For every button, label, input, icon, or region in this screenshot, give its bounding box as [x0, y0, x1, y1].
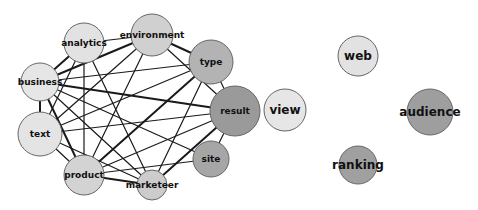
- edge-type-text: [40, 62, 211, 134]
- node-label: product: [64, 170, 104, 180]
- node-label: type: [200, 57, 223, 67]
- node-product: product: [64, 155, 104, 195]
- edge-result-text: [40, 111, 235, 134]
- edge-result-business: [40, 82, 235, 111]
- node-marketeer: marketeer: [126, 170, 179, 200]
- network-graph: analyticsenvironmenttyperesultsitemarket…: [0, 0, 478, 210]
- node-result: result: [210, 86, 260, 136]
- node-site: site: [193, 141, 229, 177]
- node-view: view: [264, 89, 306, 131]
- node-label: result: [220, 106, 250, 116]
- node-web: web: [338, 36, 378, 76]
- node-environment: environment: [120, 14, 185, 56]
- node-audience: audience: [399, 89, 460, 135]
- node-label: analytics: [61, 38, 107, 48]
- node-ranking: ranking: [332, 146, 384, 184]
- node-label: view: [269, 103, 300, 117]
- node-type: type: [189, 40, 233, 84]
- node-label: environment: [120, 30, 185, 40]
- node-label: marketeer: [126, 180, 179, 190]
- node-label: ranking: [332, 158, 384, 172]
- node-label: web: [344, 49, 372, 63]
- node-label: text: [30, 129, 51, 139]
- node-label: site: [202, 154, 221, 164]
- edge-site-business: [40, 82, 211, 159]
- node-label: audience: [399, 105, 460, 119]
- node-label: business: [18, 77, 63, 87]
- node-text: text: [18, 112, 62, 156]
